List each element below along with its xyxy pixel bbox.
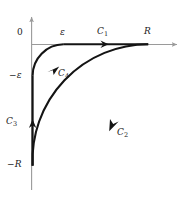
label-c3: C3	[6, 117, 17, 127]
label-radius: R	[144, 27, 151, 36]
label-c2: C2	[117, 128, 128, 138]
label-c1: C1	[97, 27, 108, 37]
label-origin: 0	[17, 28, 23, 37]
label-neg-radius: −R	[7, 160, 22, 169]
label-neg-epsilon: −ε	[9, 71, 22, 80]
figure-caption	[26, 196, 186, 204]
contour-diagram	[0, 0, 192, 204]
label-epsilon: ε	[60, 28, 65, 37]
figure-container: 0 ε R C1 −ε C4 C3 −R C2	[0, 0, 192, 204]
label-c4: C4	[58, 69, 69, 79]
contour-segment-c2	[32, 44, 148, 165]
